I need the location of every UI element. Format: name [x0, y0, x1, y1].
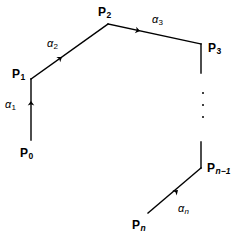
vertex-label-pn: Pn [132, 219, 146, 233]
edge-sub-alpha1: 1 [12, 103, 16, 112]
vertex-base-pn-1: P [207, 161, 215, 175]
vertical-ellipsis-icon [201, 92, 205, 118]
edge-line-p1-p2 [31, 24, 108, 79]
vertex-base-pn: P [132, 218, 140, 232]
vertex-base-p0: P [20, 146, 28, 160]
vertex-sub-pn-1: n−1 [216, 166, 231, 176]
path-arrowheads [28, 27, 180, 196]
vertex-sub-p3: 3 [217, 46, 222, 56]
polygonal-path-graphic [0, 0, 246, 242]
edge-base-alpha2: α [47, 37, 53, 49]
path-edges [31, 24, 201, 213]
edge-label-alpha1: α1 [5, 99, 16, 112]
edge-sub-alpha3: 3 [159, 18, 163, 27]
vertex-label-pn-1: Pn−1 [207, 162, 231, 176]
vertex-label-p0: P0 [20, 147, 33, 161]
vertex-base-p2: P [98, 5, 106, 19]
vertex-sub-p0: 0 [29, 151, 34, 161]
vertex-label-p3: P3 [208, 42, 221, 56]
edge-base-alpha3: α [152, 13, 158, 25]
edge-label-alpha2: α2 [47, 38, 58, 51]
vertex-base-p1: P [12, 67, 20, 81]
edge-sub-alpha2: 2 [54, 42, 58, 51]
vertex-label-p2: P2 [98, 6, 111, 20]
edge-base-alpha1: α [5, 98, 11, 110]
ellipsis-dot [202, 104, 204, 106]
edge-sub-alphan: n [185, 207, 189, 216]
figure-canvas: P0 P1 P2 P3 Pn−1 Pn α1 α2 α3 αn [0, 0, 246, 242]
vertex-sub-pn: n [141, 223, 146, 233]
ellipsis-dot [202, 92, 204, 94]
ellipsis-dot [202, 116, 204, 118]
edge-base-alphan: α [178, 202, 184, 214]
edge-label-alphan: αn [178, 203, 189, 216]
vertex-base-p3: P [208, 41, 216, 55]
vertex-sub-p2: 2 [107, 10, 112, 20]
vertex-label-p1: P1 [12, 68, 25, 82]
edge-label-alpha3: α3 [152, 14, 163, 27]
vertex-sub-p1: 1 [21, 72, 26, 82]
